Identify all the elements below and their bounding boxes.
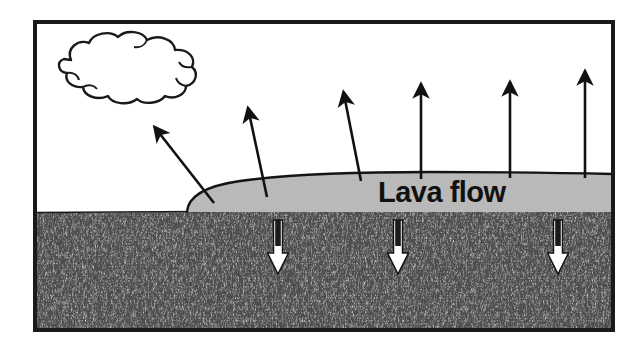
ground-texture-light (35, 211, 613, 330)
diagram-canvas: Lava flow (0, 0, 640, 357)
ground-region (35, 211, 613, 331)
lava-flow-label: Lava flow (378, 178, 506, 207)
lava-flow-cross-section-figure (0, 0, 640, 357)
